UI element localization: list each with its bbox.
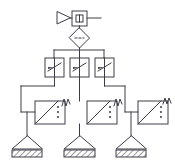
throttle-valve-1[interactable] xyxy=(45,58,64,86)
throttle-valve-2[interactable] xyxy=(70,58,89,101)
distribution-header xyxy=(54,48,104,58)
filter-separator-icon xyxy=(70,28,90,48)
vibrator-unit-2[interactable] xyxy=(87,99,122,124)
pneumatic-schematic-canvas xyxy=(0,0,175,164)
vibrator-unit-3[interactable] xyxy=(138,98,171,124)
hopper-base-3 xyxy=(116,136,146,157)
hopper-base-2 xyxy=(64,136,95,157)
compressed-air-supply-icon xyxy=(57,12,72,24)
vibrator-unit-1[interactable] xyxy=(35,99,70,124)
spring-icon xyxy=(114,99,122,106)
valve1-to-vibrator1-line xyxy=(21,86,55,112)
throttle-valve-3[interactable] xyxy=(95,58,114,86)
air-service-unit-icon xyxy=(72,11,87,26)
valve3-to-vibrator3-line xyxy=(105,86,139,112)
hopper-base-1 xyxy=(12,136,42,157)
schematic-svg xyxy=(0,0,175,164)
spring-icon xyxy=(62,99,70,106)
